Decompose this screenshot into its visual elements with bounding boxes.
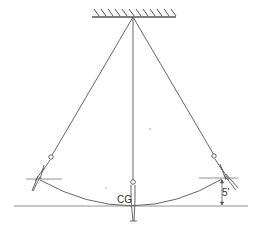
height-label: 5' [222,188,229,198]
ropes [51,17,214,180]
ceiling-support [92,9,176,17]
pendulum-diagram: CG 5' [0,0,262,235]
right-figure [212,154,238,190]
cg-label: CG [117,195,132,205]
